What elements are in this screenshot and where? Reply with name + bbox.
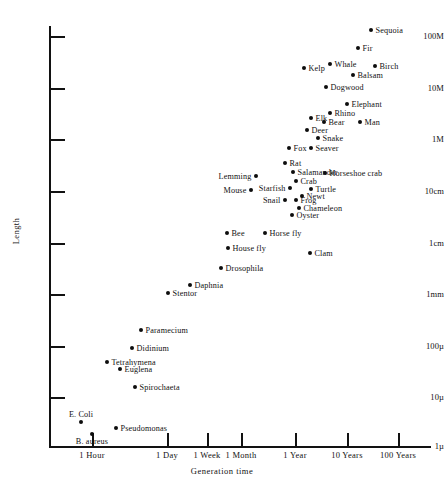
data-point-label: Horseshoe crab <box>330 169 383 178</box>
x-axis-tick <box>347 433 349 446</box>
scatter-plot-figure: 100M10M1M10cm1cm1mm100µ10µ1µ 1 Hour1 Day… <box>0 0 444 493</box>
data-point <box>291 170 295 174</box>
data-point-label: Rhino <box>335 109 356 118</box>
data-point <box>263 231 267 235</box>
data-point <box>118 367 122 371</box>
y-axis-title: Length <box>11 208 21 254</box>
data-point <box>309 116 313 120</box>
data-point-label: Fir <box>363 44 373 53</box>
data-point-label: Drosophila <box>226 264 264 273</box>
y-axis-tick <box>51 397 65 399</box>
x-axis-tick-label: 1 Year <box>283 450 307 460</box>
data-point-label: Snake <box>323 134 344 143</box>
data-point <box>283 161 287 165</box>
data-point-label: Starfish <box>259 184 286 193</box>
data-point-label: Birch <box>380 62 399 71</box>
y-axis-tick <box>51 446 65 448</box>
y-axis-tick <box>51 191 65 193</box>
data-point-label: Whale <box>335 60 357 69</box>
data-point-label: Elephant <box>352 100 382 109</box>
x-axis-tick <box>241 433 243 446</box>
data-point <box>322 120 326 124</box>
data-point <box>290 213 294 217</box>
data-point <box>358 120 362 124</box>
data-point-label: Bee <box>232 229 245 238</box>
x-axis-title: Generation time <box>0 466 444 476</box>
data-point <box>226 246 230 250</box>
data-point-label: Daphnia <box>195 281 224 290</box>
x-axis-tick <box>295 433 297 446</box>
data-point <box>305 128 309 132</box>
data-point-label: Dogwood <box>331 83 364 92</box>
data-point <box>283 198 287 202</box>
data-point-label: Fox <box>294 144 307 153</box>
data-point-label: Stentor <box>173 289 198 298</box>
data-point-label: Horse fly <box>270 229 302 238</box>
x-axis-tick-label: 100 Years <box>380 450 416 460</box>
x-axis-tick <box>167 433 169 446</box>
data-point-label: Spirochaeta <box>140 383 180 392</box>
y-axis-tick-label: 10M <box>398 83 444 93</box>
data-point <box>369 28 373 32</box>
data-point <box>105 360 109 364</box>
x-axis-tick <box>398 433 400 446</box>
data-point-label: Balsam <box>358 71 383 80</box>
data-point-label: Seaver <box>316 144 339 153</box>
data-point <box>328 111 332 115</box>
data-point <box>373 64 377 68</box>
data-point <box>219 266 223 270</box>
data-point-label: Didinium <box>137 344 170 353</box>
y-axis-tick <box>51 139 65 141</box>
x-axis-tick-label: 10 Years <box>331 450 363 460</box>
y-axis-tick <box>51 243 65 245</box>
x-axis-tick <box>207 433 209 446</box>
data-point <box>308 251 312 255</box>
x-axis-tick-label: 1 Hour <box>79 450 105 460</box>
data-point <box>345 102 349 106</box>
data-point-label: Pseudomonas <box>121 424 168 433</box>
data-point-label: Mouse <box>223 186 246 195</box>
data-point-label: Euglena <box>125 365 153 374</box>
y-axis-tick-label: 100µ <box>398 341 444 351</box>
data-point <box>114 426 118 430</box>
data-point <box>166 291 170 295</box>
y-axis-tick-label: 10cm <box>398 186 444 196</box>
y-axis-tick <box>51 346 65 348</box>
data-point <box>328 62 332 66</box>
data-point-label: E. Coli <box>69 410 93 419</box>
y-axis-tick <box>51 294 65 296</box>
data-point-label: B. aureus <box>76 437 108 446</box>
data-point <box>249 188 253 192</box>
data-point <box>139 328 143 332</box>
data-point <box>188 283 192 287</box>
data-point <box>302 66 306 70</box>
y-axis-tick-label: 1mm <box>398 289 444 299</box>
x-axis-tick-label: 1 Month <box>225 450 256 460</box>
data-point-label: Lemming <box>219 172 252 181</box>
data-point-label: Man <box>365 118 380 127</box>
data-point-label: Rat <box>290 159 302 168</box>
data-point <box>294 179 298 183</box>
y-axis-tick <box>51 88 65 90</box>
data-point <box>294 198 298 202</box>
data-point <box>351 73 355 77</box>
data-point-label: Kelp <box>309 64 326 73</box>
data-point-label: Bear <box>329 118 345 127</box>
y-axis-tick-label: 1cm <box>398 238 444 248</box>
data-point-label: Paramecium <box>146 326 188 335</box>
data-point-label: Sequoia <box>376 26 403 35</box>
x-axis-line <box>49 446 431 448</box>
data-point <box>79 420 83 424</box>
data-point-label: Snail <box>263 196 281 205</box>
data-point <box>316 136 320 140</box>
data-point-label: Clam <box>315 249 333 258</box>
data-point <box>324 85 328 89</box>
data-point <box>133 385 137 389</box>
data-point-label: Oyster <box>297 211 320 220</box>
data-point <box>356 46 360 50</box>
data-point <box>225 231 229 235</box>
x-axis-tick-label: 1 Week <box>193 450 220 460</box>
y-axis-tick-label: 100M <box>398 31 444 41</box>
data-point <box>254 174 258 178</box>
data-point <box>309 146 313 150</box>
